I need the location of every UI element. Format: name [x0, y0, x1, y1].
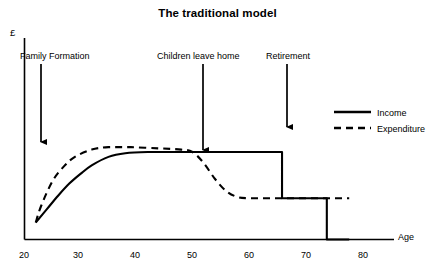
chart-figure: The traditional model £ Age 20 30 40 50 …: [0, 0, 435, 272]
series-line-income: [36, 152, 350, 239]
series-line-expenditure: [36, 147, 350, 222]
chart-plot-area: [0, 0, 435, 272]
